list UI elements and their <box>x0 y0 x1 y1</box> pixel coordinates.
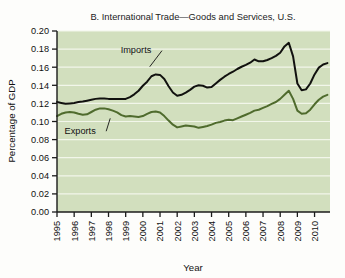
y-tick-label: 0.14 <box>31 81 49 91</box>
y-tick-label: 0.20 <box>31 26 49 36</box>
x-tick-label: 2005 <box>224 221 234 241</box>
x-tick-label: 2004 <box>207 221 217 241</box>
y-axis-title: Percentage of GDP <box>6 79 17 162</box>
x-tick-label: 1999 <box>121 221 131 241</box>
plot-background-group <box>57 31 330 212</box>
x-tick-label: 1998 <box>104 221 114 241</box>
y-tick-label: 0.18 <box>31 44 49 54</box>
x-tick-label: 1996 <box>70 221 80 241</box>
x-tick-label: 2010 <box>310 221 320 241</box>
y-tick-label: 0.12 <box>31 99 49 109</box>
y-tick-label: 0.16 <box>31 63 49 73</box>
chart-canvas: 0.000.020.040.060.080.100.120.140.160.18… <box>0 0 345 278</box>
x-tick-label: 1997 <box>87 221 97 241</box>
x-tick-label: 2000 <box>138 221 148 241</box>
x-axis-ticks: 1995199619971998199920002001200220032004… <box>52 212 320 241</box>
x-tick-label: 2003 <box>190 221 200 241</box>
y-axis-ticks: 0.000.020.040.060.080.100.120.140.160.18… <box>31 26 57 217</box>
y-tick-label: 0.06 <box>31 153 49 163</box>
y-tick-label: 0.10 <box>31 117 49 127</box>
series-annotation-label: Exports <box>65 126 97 136</box>
x-tick-label: 2009 <box>293 221 303 241</box>
x-axis-title: Year <box>183 262 203 273</box>
chart-figure: 0.000.020.040.060.080.100.120.140.160.18… <box>0 0 345 278</box>
x-tick-label: 2006 <box>241 221 251 241</box>
y-tick-label: 0.08 <box>31 135 49 145</box>
chart-title: B. International Trade—Goods and Service… <box>90 12 295 22</box>
y-tick-label: 0.04 <box>31 171 49 181</box>
x-tick-label: 2002 <box>173 221 183 241</box>
y-tick-label: 0.02 <box>31 189 49 199</box>
y-tick-label: 0.00 <box>31 207 49 217</box>
x-tick-label: 2008 <box>276 221 286 241</box>
x-tick-label: 1995 <box>52 221 62 241</box>
x-tick-label: 2007 <box>258 221 268 241</box>
x-tick-label: 2001 <box>155 221 165 241</box>
series-annotation-label: Imports <box>121 45 152 55</box>
